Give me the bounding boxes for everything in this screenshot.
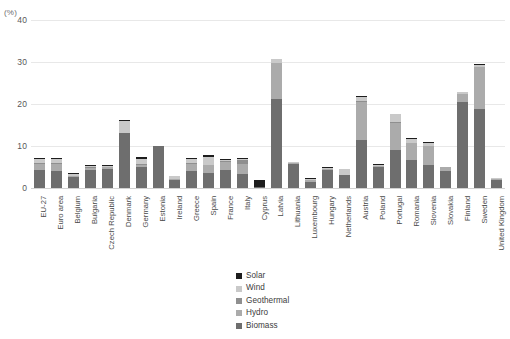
bar-segment-solar [254, 180, 265, 188]
bar-segment-biomass [220, 170, 231, 188]
stacked-bar[interactable] [119, 120, 130, 188]
stacked-bar[interactable] [68, 173, 79, 188]
bar-segment-biomass [491, 180, 502, 188]
stacked-bar[interactable] [136, 157, 147, 188]
bar-segment-biomass [457, 102, 468, 188]
bar-segment-biomass [51, 171, 62, 188]
bar-segment-biomass [237, 174, 248, 188]
y-axis-tick-label: 20 [5, 99, 27, 109]
bar-segment-hydro [474, 67, 485, 109]
legend-item-hydro[interactable]: Hydro [236, 307, 356, 319]
stacked-bar[interactable] [423, 142, 434, 188]
bar-segment-wind [390, 114, 401, 122]
stacked-bar[interactable] [85, 165, 96, 188]
stacked-bar[interactable] [169, 176, 180, 188]
x-label-slot: Slovenia [420, 190, 437, 268]
x-label-slot: Bulgaria [82, 190, 99, 268]
x-label-slot: Ireland [166, 190, 183, 268]
x-label-slot: Netherlands [336, 190, 353, 268]
x-label-slot: France [217, 190, 234, 268]
bar-segment-biomass [102, 169, 113, 188]
stacked-bar[interactable] [474, 64, 485, 188]
x-label-slot: Estonia [150, 190, 167, 268]
legend-item-biomass[interactable]: Biomass [236, 320, 356, 332]
y-axis-tick-label: 0 [5, 183, 27, 193]
bar-segment-biomass [474, 109, 485, 188]
legend-item-wind[interactable]: Wind [236, 282, 356, 294]
bar-segment-wind [203, 157, 214, 165]
legend-item-label: Solar [246, 272, 265, 280]
x-label-slot: Czech Republic [99, 190, 116, 268]
legend-item-geothermal[interactable]: Geothermal [236, 295, 356, 307]
stacked-bar[interactable] [406, 138, 417, 188]
gridline-0 [31, 188, 505, 189]
x-label-slot: Germany [133, 190, 150, 268]
bar-segment-biomass [423, 165, 434, 188]
stacked-bar[interactable] [322, 167, 333, 188]
stacked-bar[interactable] [237, 158, 248, 188]
bar-segment-biomass [373, 167, 384, 188]
x-label-slot: Greece [183, 190, 200, 268]
legend-swatch-icon [236, 310, 242, 316]
x-label-slot: Romania [403, 190, 420, 268]
stacked-bar[interactable] [186, 158, 197, 188]
bar-segment-biomass [288, 164, 299, 188]
legend-swatch-icon [236, 273, 242, 279]
legend-swatch-icon [236, 286, 242, 292]
bar-segment-biomass [322, 170, 333, 188]
stacked-bar[interactable] [390, 114, 401, 188]
bar-segment-biomass [34, 170, 45, 188]
bar-segment-biomass [136, 167, 147, 188]
bar-segment-biomass [119, 133, 130, 188]
bar-segment-hydro [406, 143, 417, 161]
stacked-bar[interactable] [339, 169, 350, 188]
x-label-slot: Euro area [48, 190, 65, 268]
x-label-slot: Latvia [268, 190, 285, 268]
bar-segment-hydro [220, 162, 231, 170]
stacked-bar[interactable] [491, 178, 502, 188]
bar-segment-biomass [68, 177, 79, 188]
bar-segment-biomass [254, 187, 265, 188]
bar-segment-hydro [457, 94, 468, 102]
x-label-slot: Sweden [471, 190, 488, 268]
x-label-slot: Belgium [65, 190, 82, 268]
renewable-energy-share-chart: (%) 010203040 EU-27Euro areaBelgiumBulga… [0, 0, 510, 339]
x-label-slot: Poland [370, 190, 387, 268]
stacked-bar[interactable] [153, 146, 164, 188]
legend-item-solar[interactable]: Solar [236, 270, 356, 282]
y-axis-tick-label: 10 [5, 141, 27, 151]
stacked-bar[interactable] [220, 159, 231, 188]
bar-segment-biomass [356, 140, 367, 188]
legend-swatch-icon [236, 298, 242, 304]
bar-segment-biomass [440, 171, 451, 188]
stacked-bar[interactable] [203, 155, 214, 188]
bar-segment-hydro [51, 164, 62, 171]
stacked-bar[interactable] [440, 167, 451, 188]
bar-segment-wind [119, 121, 130, 133]
stacked-bar[interactable] [254, 180, 265, 188]
x-label-slot: EU-27 [31, 190, 48, 268]
stacked-bar[interactable] [305, 178, 316, 188]
bar-segment-hydro [186, 164, 197, 171]
stacked-bar[interactable] [51, 158, 62, 188]
bar-segment-biomass [339, 175, 350, 188]
x-axis-category-label-text: United Kingdom [497, 196, 506, 251]
stacked-bar[interactable] [356, 96, 367, 188]
bar-segment-hydro [390, 123, 401, 150]
stacked-bar[interactable] [102, 165, 113, 188]
stacked-bar[interactable] [288, 162, 299, 188]
x-label-slot: Spain [200, 190, 217, 268]
stacked-bar[interactable] [373, 164, 384, 188]
x-label-slot: Hungary [319, 190, 336, 268]
bar-segment-hydro [271, 63, 282, 99]
chart-legend: SolarWindGeothermalHydroBiomass [236, 270, 356, 332]
bar-segment-biomass [186, 171, 197, 188]
stacked-bar[interactable] [34, 158, 45, 188]
x-label-slot: Austria [353, 190, 370, 268]
bar-segment-biomass [85, 170, 96, 188]
y-axis-tick-label: 40 [5, 15, 27, 25]
stacked-bar[interactable] [271, 59, 282, 188]
bar-segment-biomass [305, 182, 316, 188]
legend-item-label: Hydro [246, 309, 268, 317]
stacked-bar[interactable] [457, 92, 468, 188]
